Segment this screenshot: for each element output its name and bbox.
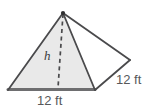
pyramid-drawing	[0, 0, 153, 112]
height-label: h	[44, 48, 51, 64]
pyramid-apex-vertex	[61, 11, 65, 15]
slant-edge-dimension-label: 12 ft	[116, 72, 141, 87]
base-edge-dimension-label: 12 ft	[37, 93, 62, 108]
square-pyramid-figure: h 12 ft 12 ft	[0, 0, 153, 112]
